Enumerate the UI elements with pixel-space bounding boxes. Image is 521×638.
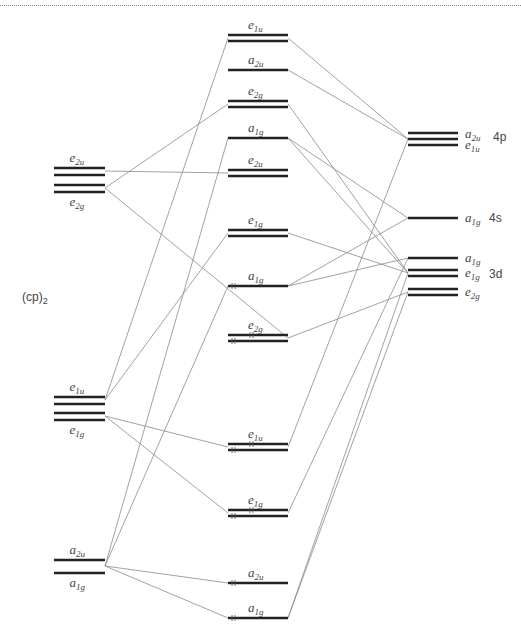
symmetry-label: a1g <box>248 269 264 285</box>
correlation-line <box>105 38 228 400</box>
symmetry-label: a1g <box>248 601 264 617</box>
correlation-line <box>288 38 408 139</box>
symmetry-label: e1g <box>465 266 480 282</box>
correlation-line <box>105 566 228 583</box>
symmetry-label: a2u <box>248 566 264 582</box>
correlation-line <box>105 416 228 447</box>
symmetry-label: e1g <box>248 493 263 509</box>
correlation-line <box>105 188 288 338</box>
symmetry-label: a2u <box>70 543 86 559</box>
correlation-line <box>288 258 408 513</box>
symmetry-label: e2u <box>248 153 263 169</box>
symmetry-label: e2g <box>248 318 263 334</box>
cp-label-subscript: 2 <box>43 296 48 306</box>
symmetry-label: e1u <box>248 427 263 443</box>
symmetry-label: e1g <box>70 423 85 439</box>
fragment-label-cp2: (cp)2 <box>22 290 48 306</box>
correlation-line <box>288 273 408 618</box>
correlation-line <box>105 104 228 188</box>
symmetry-label: e2u <box>70 151 85 167</box>
fragment-label-3d: 3d <box>489 268 502 280</box>
symmetry-label: a1g <box>465 211 481 227</box>
correlation-line <box>105 286 228 566</box>
symmetry-label: a1g <box>70 576 86 592</box>
symmetry-label: e1u <box>465 138 480 154</box>
correlation-line <box>105 138 228 566</box>
fragment-label-4s: 4s <box>489 212 502 224</box>
correlation-line <box>105 233 228 400</box>
symmetry-label: e1g <box>248 213 263 229</box>
symmetry-label: a2u <box>248 53 264 69</box>
correlation-line <box>105 171 228 173</box>
correlation-line <box>288 218 408 286</box>
correlation-line <box>288 104 408 273</box>
fragment-label-4p: 4p <box>493 131 506 143</box>
correlation-line <box>105 566 228 618</box>
symmetry-label: e2g <box>248 84 263 100</box>
symmetry-label: e2g <box>465 285 480 301</box>
correlation-line <box>105 416 228 513</box>
correlation-line <box>288 139 408 447</box>
correlation-line <box>288 292 408 338</box>
symmetry-label: a1g <box>248 121 264 137</box>
cp-label-text: (cp) <box>22 290 43 304</box>
symmetry-label: e1u <box>70 380 85 396</box>
symmetry-label: e2g <box>70 195 85 211</box>
symmetry-label: e1u <box>248 18 263 34</box>
correlation-line <box>288 258 408 286</box>
correlation-line <box>288 70 408 139</box>
correlation-line <box>288 292 408 618</box>
